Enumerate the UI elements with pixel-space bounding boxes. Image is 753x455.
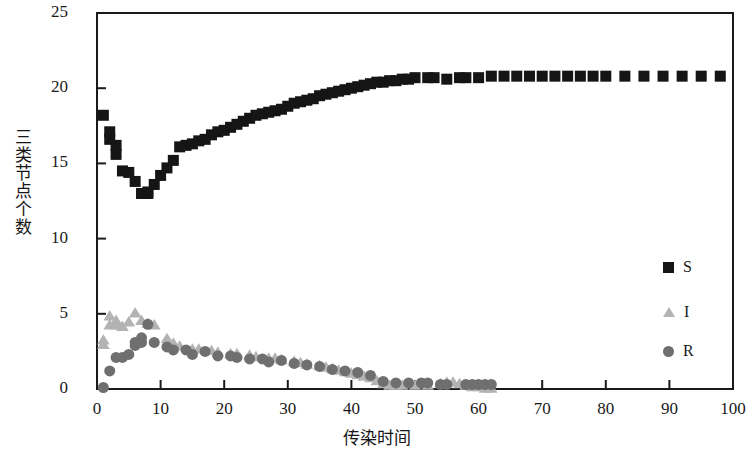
data-point-s	[549, 71, 560, 82]
data-point-r	[352, 367, 363, 378]
data-point-r	[441, 379, 452, 390]
legend-item-s: S	[663, 258, 692, 276]
data-point-r	[314, 361, 325, 372]
data-point-r	[276, 355, 287, 366]
data-point-r	[422, 377, 433, 388]
data-point-r	[263, 356, 274, 367]
data-point-s	[130, 176, 141, 187]
x-tick-label: 70	[522, 399, 562, 419]
y-axis-ticks	[97, 88, 106, 314]
data-point-s	[111, 149, 122, 160]
x-tick-label: 0	[77, 399, 117, 419]
square-marker-icon	[663, 262, 674, 273]
series-s-markers	[98, 71, 726, 199]
y-tick-label: 0	[34, 378, 68, 398]
plot-canvas	[0, 0, 753, 455]
y-tick-label: 15	[34, 152, 68, 172]
y-axis-title: 三类节点个数	[6, 128, 32, 236]
data-point-r	[289, 358, 300, 369]
data-point-r	[142, 319, 153, 330]
chart-figure: 0510152025 0102030405060708090100 三类节点个数…	[0, 0, 753, 455]
y-tick-label: 20	[34, 77, 68, 97]
data-point-s	[537, 71, 548, 82]
data-point-r	[378, 376, 389, 387]
data-point-r	[403, 377, 414, 388]
data-point-r	[340, 365, 351, 376]
data-point-r	[390, 377, 401, 388]
legend-label: I	[684, 303, 689, 321]
x-tick-label: 30	[268, 399, 308, 419]
x-tick-label: 80	[586, 399, 626, 419]
data-point-s	[575, 71, 586, 82]
y-tick-label: 10	[34, 228, 68, 248]
data-point-s	[619, 71, 630, 82]
data-point-r	[486, 379, 497, 390]
x-tick-label: 50	[395, 399, 435, 419]
data-point-s	[562, 71, 573, 82]
data-point-s	[429, 72, 440, 83]
data-point-r	[123, 349, 134, 360]
x-tick-label: 10	[141, 399, 181, 419]
data-point-i	[122, 316, 135, 326]
data-point-r	[168, 344, 179, 355]
data-point-i	[129, 307, 142, 317]
data-point-s	[696, 71, 707, 82]
data-point-r	[365, 370, 376, 381]
data-point-s	[588, 71, 599, 82]
legend-label: R	[683, 342, 694, 360]
data-point-s	[486, 71, 497, 82]
data-point-r	[98, 382, 109, 393]
data-point-s	[658, 71, 669, 82]
x-tick-label: 90	[649, 399, 689, 419]
plot-frame	[97, 13, 733, 389]
data-point-r	[149, 337, 160, 348]
data-point-r	[187, 349, 198, 360]
x-tick-label: 60	[459, 399, 499, 419]
data-point-r	[212, 350, 223, 361]
data-point-s	[677, 71, 688, 82]
legend-label: S	[683, 258, 692, 276]
data-point-r	[301, 359, 312, 370]
x-axis-title: 传染时间	[0, 424, 753, 449]
data-point-s	[441, 74, 452, 85]
y-tick-label: 5	[34, 303, 68, 323]
data-point-s	[638, 71, 649, 82]
data-point-s	[473, 72, 484, 83]
legend-item-r: R	[663, 342, 694, 360]
data-point-s	[499, 71, 510, 82]
series-r-markers	[98, 319, 497, 393]
data-point-s	[511, 71, 522, 82]
data-point-s	[410, 72, 421, 83]
x-tick-label: 40	[331, 399, 371, 419]
triangle-marker-icon	[663, 307, 675, 317]
circle-marker-icon	[663, 346, 674, 357]
data-point-r	[104, 365, 115, 376]
data-point-s	[715, 71, 726, 82]
data-point-s	[168, 155, 179, 166]
data-point-r	[200, 346, 211, 357]
x-tick-label: 100	[713, 399, 753, 419]
y-tick-label: 25	[34, 2, 68, 22]
data-point-r	[231, 352, 242, 363]
data-point-r	[136, 332, 147, 343]
data-point-r	[327, 364, 338, 375]
data-point-s	[98, 110, 109, 121]
data-point-s	[600, 71, 611, 82]
data-point-s	[524, 71, 535, 82]
x-tick-label: 20	[204, 399, 244, 419]
legend-item-i: I	[663, 303, 689, 321]
data-point-r	[244, 353, 255, 364]
data-point-s	[460, 72, 471, 83]
